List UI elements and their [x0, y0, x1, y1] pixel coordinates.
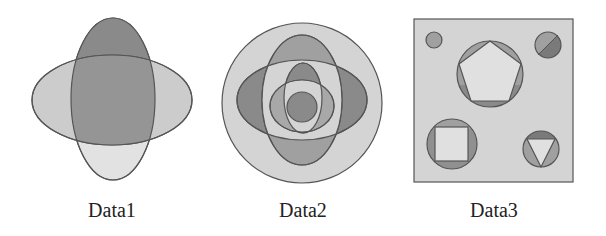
data3-diagram	[414, 19, 573, 182]
data2-label: Data2	[243, 199, 363, 222]
data3-label: Data3	[434, 199, 554, 222]
data1-diagram	[32, 15, 192, 180]
data3-small-circle	[426, 32, 442, 48]
data2-diagram	[222, 23, 382, 183]
data2-center-circle	[287, 92, 317, 122]
data1-label: Data1	[52, 199, 172, 222]
